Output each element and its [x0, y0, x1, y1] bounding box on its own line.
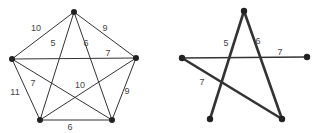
- edge-weight-label: 6: [67, 122, 72, 132]
- edge-weight-label: 9: [102, 23, 107, 33]
- edge-weight-label: 11: [10, 87, 19, 97]
- edge-EC: [182, 58, 282, 119]
- vertex-C: [109, 117, 115, 123]
- vertex-B: [133, 55, 139, 61]
- edge-weight-label: 7: [277, 47, 282, 57]
- edge-weight-label: 10: [75, 80, 85, 90]
- edge-weight-label: 10: [31, 23, 41, 33]
- edge-AD: [210, 11, 244, 119]
- edge-EB: [12, 58, 136, 59]
- complete-graph: 1095677101196: [9, 9, 139, 132]
- edge-AE: [12, 12, 74, 59]
- vertex-A: [241, 8, 247, 14]
- vertex-D: [207, 116, 213, 122]
- graph-diagram: 1095677101196 5677: [0, 0, 318, 133]
- vertex-C: [279, 116, 285, 122]
- edge-weight-label: 7: [105, 48, 110, 58]
- vertex-D: [37, 117, 43, 123]
- vertex-E: [179, 55, 185, 61]
- edge-weight-label: 6: [83, 38, 88, 48]
- edge-DB: [40, 58, 136, 120]
- edge-EB: [182, 57, 307, 58]
- edge-AD: [40, 12, 74, 120]
- vertex-A: [71, 9, 77, 15]
- spanning-tree-graph: 5677: [179, 8, 310, 122]
- edge-AC: [244, 11, 282, 119]
- edge-weight-label: 7: [199, 77, 204, 87]
- vertex-E: [9, 56, 15, 62]
- edge-weight-label: 5: [50, 38, 55, 48]
- edge-weight-label: 5: [223, 38, 228, 48]
- edge-weight-label: 9: [124, 86, 129, 96]
- edge-weight-label: 7: [30, 78, 35, 88]
- edge-weight-label: 6: [255, 36, 260, 46]
- vertex-B: [304, 54, 310, 60]
- edge-EC: [12, 59, 112, 120]
